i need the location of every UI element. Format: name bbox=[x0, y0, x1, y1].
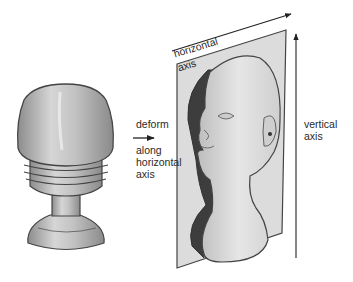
vertical-axis-label: vertical bbox=[304, 118, 337, 130]
head-bust bbox=[188, 56, 280, 262]
diagram-canvas bbox=[0, 0, 353, 282]
pawn-object bbox=[18, 84, 114, 250]
horizontal-label: horizontal bbox=[136, 156, 182, 168]
axis-label: axis bbox=[136, 168, 155, 180]
deform-label: deform bbox=[136, 118, 169, 130]
vertical-axis-label-axis: axis bbox=[304, 130, 323, 142]
along-label: along bbox=[136, 144, 162, 156]
